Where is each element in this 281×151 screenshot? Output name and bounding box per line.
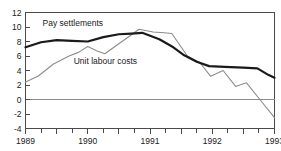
x-tick-label: 1990 bbox=[78, 136, 97, 146]
x-tick-label: 1991 bbox=[141, 136, 160, 146]
y-tick-label: 6 bbox=[17, 51, 22, 61]
x-tick-label: 1993 bbox=[265, 136, 281, 146]
y-tick-label: 12 bbox=[12, 8, 22, 18]
y-tick-label: 0 bbox=[17, 95, 22, 105]
chart-container: 121086420-2-4 19891990199119921993 Pay s… bbox=[0, 0, 281, 151]
x-tick-label: 1992 bbox=[203, 136, 222, 146]
y-tick-label: 8 bbox=[17, 37, 22, 47]
x-tick-label: 1989 bbox=[16, 136, 35, 146]
y-tick-label: 4 bbox=[17, 66, 22, 76]
series-label-pay-settlements: Pay settlements bbox=[43, 18, 103, 28]
y-tick-label: 10 bbox=[12, 22, 22, 32]
y-tick-label: -4 bbox=[14, 124, 22, 134]
y-tick-label: 2 bbox=[17, 80, 22, 90]
series-label-unit-labour-costs: Unit labour costs bbox=[74, 56, 137, 66]
y-tick-label: -2 bbox=[14, 109, 22, 119]
line-chart: 121086420-2-4 19891990199119921993 Pay s… bbox=[0, 0, 281, 151]
